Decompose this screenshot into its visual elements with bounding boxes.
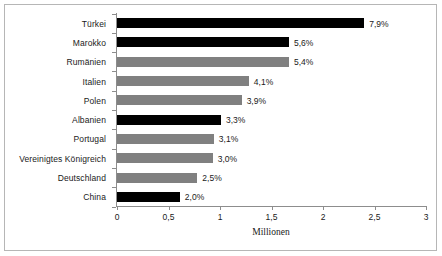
bar-data-label: 3,3% bbox=[226, 116, 245, 125]
y-axis-tick bbox=[112, 207, 116, 208]
x-axis-tick bbox=[272, 206, 273, 210]
bar-data-label: 3,9% bbox=[247, 97, 266, 106]
category-label: Türkei bbox=[0, 20, 106, 29]
x-axis-tick bbox=[169, 206, 170, 210]
x-axis-tick-label: 2 bbox=[321, 212, 326, 222]
bar[interactable] bbox=[117, 37, 289, 47]
y-axis-tick bbox=[112, 52, 116, 53]
plot-area: Millionen 00,511,522,53Türkei7,9%Marokko… bbox=[5, 5, 436, 250]
y-axis-tick bbox=[112, 129, 116, 130]
x-axis-tick-label: 0 bbox=[115, 212, 120, 222]
category-label: Portugal bbox=[0, 135, 106, 144]
x-axis-tick-label: 2,5 bbox=[369, 212, 381, 222]
x-axis-tick bbox=[117, 206, 118, 210]
bar[interactable] bbox=[117, 173, 197, 183]
x-axis-tick bbox=[375, 206, 376, 210]
bar[interactable] bbox=[117, 115, 221, 125]
chart-frame: Millionen 00,511,522,53Türkei7,9%Marokko… bbox=[4, 4, 437, 251]
category-label: China bbox=[0, 193, 106, 202]
y-axis-tick bbox=[112, 33, 116, 34]
category-label: Albanien bbox=[0, 116, 106, 125]
y-axis-tick bbox=[112, 91, 116, 92]
bar[interactable] bbox=[117, 153, 213, 163]
bar-data-label: 3,0% bbox=[218, 155, 237, 164]
bar[interactable] bbox=[117, 76, 249, 86]
bar[interactable] bbox=[117, 134, 214, 144]
y-axis-tick bbox=[112, 149, 116, 150]
bar[interactable] bbox=[117, 192, 180, 202]
category-label: Rumänien bbox=[0, 58, 106, 67]
bar-data-label: 7,9% bbox=[369, 20, 388, 29]
category-label: Polen bbox=[0, 97, 106, 106]
x-axis-tick-label: 3 bbox=[424, 212, 429, 222]
bar-data-label: 5,6% bbox=[294, 39, 313, 48]
bar-data-label: 2,5% bbox=[202, 174, 221, 183]
bar-data-label: 5,4% bbox=[294, 58, 313, 67]
bar[interactable] bbox=[117, 95, 242, 105]
bar[interactable] bbox=[117, 18, 364, 28]
category-label: Deutschland bbox=[0, 174, 106, 183]
y-axis-tick bbox=[112, 110, 116, 111]
bar-data-label: 2,0% bbox=[185, 193, 204, 202]
category-label: Italien bbox=[0, 78, 106, 87]
x-axis-tick-label: 0,5 bbox=[163, 212, 175, 222]
x-axis-title: Millionen bbox=[116, 227, 426, 237]
y-axis-tick bbox=[112, 168, 116, 169]
bar[interactable] bbox=[117, 57, 289, 67]
y-axis-tick bbox=[112, 187, 116, 188]
x-axis-tick bbox=[220, 206, 221, 210]
x-axis-tick bbox=[426, 206, 427, 210]
y-axis-tick bbox=[112, 71, 116, 72]
bar-data-label: 4,1% bbox=[254, 78, 273, 87]
x-axis-tick bbox=[323, 206, 324, 210]
x-axis-tick-label: 1,5 bbox=[266, 212, 278, 222]
category-label: Marokko bbox=[0, 39, 106, 48]
y-axis-tick bbox=[112, 14, 116, 15]
bar-data-label: 3,1% bbox=[219, 135, 238, 144]
category-label: Vereinigtes Königreich bbox=[0, 155, 106, 164]
x-axis-tick-label: 1 bbox=[218, 212, 223, 222]
